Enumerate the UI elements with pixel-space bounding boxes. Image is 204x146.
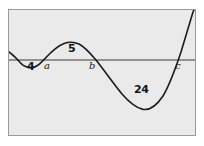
figure-root: 4 5 24 a b c bbox=[0, 0, 204, 146]
label-value-24: 24 bbox=[134, 84, 149, 95]
label-root-c: c bbox=[175, 61, 181, 71]
label-root-a: a bbox=[44, 61, 50, 71]
plot-canvas bbox=[9, 10, 195, 135]
label-value-4: 4 bbox=[27, 61, 34, 72]
label-root-b: b bbox=[89, 61, 95, 71]
label-value-5: 5 bbox=[68, 43, 75, 54]
plot-frame: 4 5 24 a b c bbox=[8, 9, 196, 136]
